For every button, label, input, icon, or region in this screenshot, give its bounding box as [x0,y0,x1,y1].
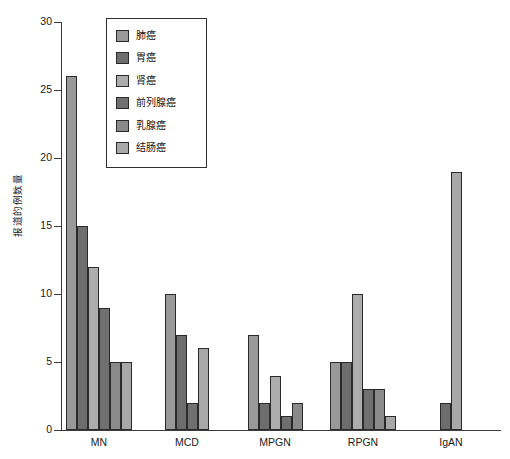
bar-RPGN-肾癌 [352,294,363,430]
legend-label: 肾癌 [136,76,156,86]
legend-swatch-icon-结肠癌 [116,142,129,154]
y-tick-label-25: 25 [12,84,52,95]
bar-chart: 报道的例数量 051015202530 MNMCDMPGNRPGNIgAN 肺癌… [0,0,510,459]
bar-MN-乳腺癌 [110,362,121,430]
bar-MPGN-乳腺癌 [292,403,303,430]
bar-MPGN-肾癌 [270,376,281,430]
legend-label: 肺癌 [136,31,156,41]
bar-MPGN-胃癌 [259,403,270,430]
bar-IgAN-胃癌 [440,403,451,430]
legend-label: 胃癌 [136,53,156,63]
x-label-IgAN: IgAN [415,436,487,448]
x-label-RPGN: RPGN [305,436,421,448]
bar-MCD-胃癌 [176,335,187,430]
legend-item-胃癌: 胃癌 [116,50,156,67]
legend-item-前列腺癌: 前列腺癌 [116,95,176,112]
bar-MCD-结肠癌 [198,348,209,430]
y-tick-label-15: 15 [12,220,52,231]
legend-swatch-icon-肺癌 [116,30,129,42]
y-tick-label-5: 5 [12,356,52,367]
legend-swatch-icon-乳腺癌 [116,120,129,132]
bar-MPGN-肺癌 [248,335,259,430]
legend-swatch-icon-胃癌 [116,52,129,64]
legend-item-乳腺癌: 乳腺癌 [116,117,166,134]
bar-IgAN-结肠癌 [451,172,462,430]
y-axis-title: 报道的例数量 [10,165,24,245]
bar-MN-肺癌 [66,76,77,430]
legend-item-肾癌: 肾癌 [116,72,156,89]
x-axis-line [61,430,501,431]
legend-swatch-icon-前列腺癌 [116,97,129,109]
legend: 肺癌胃癌肾癌前列腺癌乳腺癌结肠癌 [106,18,207,168]
legend-swatch-icon-肾癌 [116,75,129,87]
bar-RPGN-乳腺癌 [374,389,385,430]
bar-MCD-肺癌 [165,294,176,430]
y-tick-label-10: 10 [12,288,52,299]
y-tick-label-20: 20 [12,152,52,163]
x-label-MCD: MCD [140,436,234,448]
bar-MN-结肠癌 [121,362,132,430]
y-tick-0 [54,430,62,431]
legend-item-结肠癌: 结肠癌 [116,140,166,157]
y-tick-label-30: 30 [12,16,52,27]
bar-MN-前列腺癌 [99,308,110,430]
bar-MN-胃癌 [77,226,88,430]
bar-MN-肾癌 [88,267,99,430]
bar-RPGN-前列腺癌 [363,389,374,430]
legend-label: 结肠癌 [136,143,166,153]
bar-MCD-前列腺癌 [187,403,198,430]
y-tick-label-0: 0 [12,424,52,435]
bar-RPGN-结肠癌 [385,416,396,430]
bar-RPGN-胃癌 [341,362,352,430]
legend-label: 前列腺癌 [136,98,176,108]
bar-MPGN-前列腺癌 [281,416,292,430]
legend-label: 乳腺癌 [136,121,166,131]
bar-RPGN-肺癌 [330,362,341,430]
legend-item-肺癌: 肺癌 [116,27,156,44]
